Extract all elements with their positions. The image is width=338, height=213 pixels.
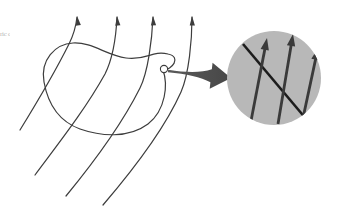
surface-patch-marker: [160, 65, 167, 72]
field-lines-group: [20, 17, 192, 205]
arrowhead-icon: [115, 16, 120, 26]
figure-container: ric ce: [0, 0, 338, 213]
magnified-inset: [227, 31, 321, 125]
inset-background-circle: [227, 31, 321, 125]
arrowhead-icon: [190, 16, 195, 26]
field-line: [20, 17, 77, 130]
field-line: [103, 17, 192, 205]
field-line: [66, 17, 153, 196]
physics-diagram: [0, 0, 338, 213]
callout-arrow-shape: [168, 63, 231, 89]
magnification-callout-arrow: [168, 63, 231, 89]
field-line-arrowheads-group: [76, 16, 195, 26]
